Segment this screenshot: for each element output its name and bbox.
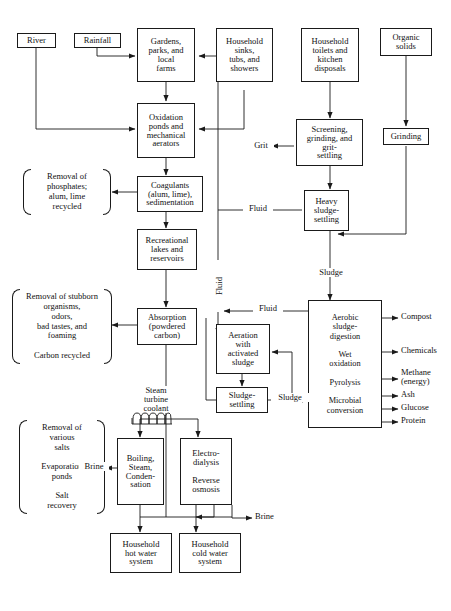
brace-right-bracket xyxy=(105,287,113,366)
node-boiling-steam-condensation[interactable]: Boiling, Steam, Conden- sation xyxy=(117,438,164,505)
edge-label-sludge-main: Sludge xyxy=(312,268,350,277)
edge-label-fluid-heavy-sludge: Fluid xyxy=(243,204,273,213)
flowchart-canvas: River Rainfall Gardens, parks, and local… xyxy=(0,0,451,611)
node-gardens-parks-farms[interactable]: Gardens, parks, and local farms xyxy=(137,28,195,82)
node-grinding[interactable]: Grinding xyxy=(383,128,429,145)
output-methane: Methane (energy) xyxy=(400,368,451,386)
brace-phosphates-label: Removal of phosphates; alum, lime recycl… xyxy=(30,172,104,211)
node-sludge-settling[interactable]: Sludge- settling xyxy=(216,387,268,413)
brace-removal-phosphates: Removal of phosphates; alum, lime recycl… xyxy=(22,167,112,217)
node-rainfall[interactable]: Rainfall xyxy=(74,33,121,48)
node-household-toilets[interactable]: Household toilets and kitchen disposals xyxy=(301,28,359,82)
output-compost: Compost xyxy=(400,312,450,321)
node-aerobic-sludge-digestion[interactable]: Aerobic sludge- digestion Wet oxidation … xyxy=(308,300,382,428)
node-aeration-activated-sludge[interactable]: Aeration with activated sludge xyxy=(216,324,270,374)
edge-label-brine-left: Brine xyxy=(79,462,109,471)
node-screening-grinding[interactable]: Screening, grinding, and grit- settling xyxy=(296,119,363,166)
node-organic-solids[interactable]: Organic solids xyxy=(380,28,432,56)
brace-removal-stubborn-organisms: Removal of stubborn organisms, odors, ba… xyxy=(11,287,113,366)
output-chemicals: Chemicals xyxy=(400,346,451,355)
edge-label-grit: Grit xyxy=(248,141,274,150)
node-household-sinks[interactable]: Household sinks, tubs, and showers xyxy=(216,28,273,82)
node-coagulants[interactable]: Coagulants (alum, lime), sedimentation xyxy=(137,176,203,212)
edge-label-fluid-aeration: Fluid xyxy=(253,304,283,313)
heat-exchanger-coil-icon xyxy=(131,411,173,427)
edge-label-brine-right: Brine xyxy=(254,512,286,521)
output-ash: Ash xyxy=(400,390,432,399)
brace-left-bracket xyxy=(11,287,19,366)
node-river[interactable]: River xyxy=(17,33,56,48)
edge-label-sludge-return: Sludge xyxy=(271,393,309,402)
node-absorption[interactable]: Absorption (powdered carbon) xyxy=(137,308,197,345)
node-household-hot-water[interactable]: Household hot water system xyxy=(110,533,172,573)
brace-stubborn-label: Removal of stubborn organisms, odors, ba… xyxy=(19,292,105,360)
node-heavy-sludge-settling[interactable]: Heavy sludge- settling xyxy=(304,190,349,231)
brace-left-bracket xyxy=(22,167,30,217)
brace-left-bracket xyxy=(18,418,26,516)
output-protein: Protein xyxy=(400,416,444,425)
output-glucose: Glucose xyxy=(400,403,446,412)
node-household-cold-water[interactable]: Household cold water system xyxy=(179,533,241,573)
node-oxidation-ponds[interactable]: Oxidation ponds and mechanical aerators xyxy=(137,103,195,158)
edge-label-steam-turbine-coolant: Steam turbine coolant xyxy=(126,386,186,413)
node-recreational-lakes[interactable]: Recreational lakes and reservoirs xyxy=(137,229,197,270)
node-electrodialysis-reverse-osmosis[interactable]: Electro- dialysis Reverse osmosis xyxy=(180,438,232,505)
edge-label-fluid-riser: Fluid xyxy=(215,260,224,312)
brace-right-bracket xyxy=(104,167,112,217)
